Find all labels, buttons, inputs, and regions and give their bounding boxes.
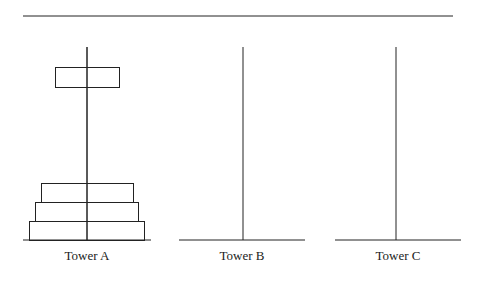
- tower-b-label: Tower B: [182, 248, 302, 264]
- hanoi-diagram: [0, 0, 480, 289]
- tower-a-label: Tower A: [27, 248, 147, 264]
- tower-c-label: Tower C: [338, 248, 458, 264]
